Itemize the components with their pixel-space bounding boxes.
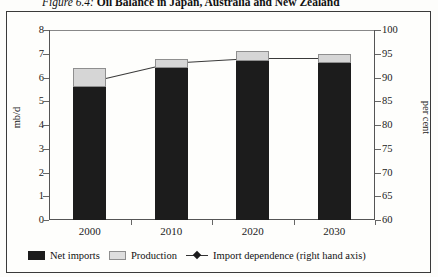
- legend-swatch-import-dependence: [186, 251, 208, 260]
- right-axis-tick-mark: [375, 101, 381, 102]
- legend-item-import-dependence: Import dependence (right hand axis): [186, 250, 366, 261]
- category-label-2010: 2010: [141, 225, 201, 237]
- right-axis-tick-75: 75: [382, 144, 408, 154]
- left-axis-tick-2: 2: [22, 168, 44, 178]
- left-axis-tick-1: 1: [22, 191, 44, 201]
- x-axis-tick-mark: [375, 220, 376, 225]
- right-axis-tick-65: 65: [382, 191, 408, 201]
- figure-title: Oil Balance in Japan, Australia and New …: [97, 0, 340, 8]
- left-axis-tick-mark: [43, 220, 49, 221]
- right-axis-tick-60: 60: [382, 215, 408, 225]
- left-axis-tick-mark: [43, 196, 49, 197]
- left-axis-tick-5: 5: [22, 96, 44, 106]
- bar-segment-net-imports-2030[interactable]: [318, 63, 351, 220]
- right-axis-tick-mark: [375, 54, 381, 55]
- bar-segment-production-2020[interactable]: [236, 51, 269, 61]
- bar-group-2000[interactable]: [73, 30, 106, 220]
- legend-label-import-dependence: Import dependence (right hand axis): [213, 250, 366, 261]
- left-axis-tick-4: 4: [22, 120, 44, 130]
- left-axis-tick-mark: [43, 173, 49, 174]
- legend-swatch-net-imports: [28, 251, 45, 260]
- legend-item-net-imports: Net imports: [28, 250, 100, 261]
- figure-caption: Figure 6.4: Oil Balance in Japan, Austra…: [42, 0, 432, 10]
- legend-label-net-imports: Net imports: [50, 250, 100, 261]
- bar-segment-net-imports-2000[interactable]: [73, 87, 106, 220]
- left-axis-tick-mark: [43, 149, 49, 150]
- legend-swatch-production: [109, 251, 126, 260]
- bar-group-2020[interactable]: [236, 30, 269, 220]
- bar-segment-production-2010[interactable]: [155, 59, 188, 69]
- left-axis-tick-mark: [43, 101, 49, 102]
- x-axis-tick-mark: [131, 220, 132, 225]
- right-axis-tick-100: 100: [382, 25, 408, 35]
- left-axis-tick-8: 8: [22, 25, 44, 35]
- right-axis-tick-mark: [375, 149, 381, 150]
- bar-segment-production-2000[interactable]: [73, 68, 106, 87]
- legend-label-production: Production: [131, 250, 177, 261]
- category-label-2030: 2030: [304, 225, 364, 237]
- right-axis-tick-mark: [375, 78, 381, 79]
- bar-group-2010[interactable]: [155, 30, 188, 220]
- bar-group-2030[interactable]: [318, 30, 351, 220]
- chart-legend: Net imports Production Import dependence…: [28, 250, 366, 261]
- left-axis-tick-0: 0: [22, 215, 44, 225]
- left-axis-title: mb/d: [11, 98, 22, 138]
- left-axis-tick-6: 6: [22, 73, 44, 83]
- left-axis-tick-mark: [43, 78, 49, 79]
- figure-container: Figure 6.4: Oil Balance in Japan, Austra…: [0, 0, 438, 277]
- x-axis-tick-mark: [294, 220, 295, 225]
- right-axis-tick-mark: [375, 125, 381, 126]
- left-axis-tick-3: 3: [22, 144, 44, 154]
- right-axis-tick-80: 80: [382, 120, 408, 130]
- right-axis-tick-90: 90: [382, 73, 408, 83]
- right-axis-tick-mark: [375, 173, 381, 174]
- right-axis-tick-70: 70: [382, 168, 408, 178]
- left-axis-tick-7: 7: [22, 49, 44, 59]
- figure-number: Figure 6.4:: [42, 0, 94, 8]
- legend-item-production: Production: [109, 250, 177, 261]
- bar-segment-production-2030[interactable]: [318, 54, 351, 64]
- x-axis-tick-mark: [212, 220, 213, 225]
- left-axis-tick-mark: [43, 30, 49, 31]
- category-label-2020: 2020: [223, 225, 283, 237]
- right-axis-tick-mark: [375, 196, 381, 197]
- right-axis-tick-85: 85: [382, 96, 408, 106]
- left-axis-tick-labels: 876543210: [20, 0, 44, 277]
- right-axis-tick-labels: 1009590858075706560: [382, 0, 412, 277]
- right-axis-tick-95: 95: [382, 49, 408, 59]
- right-axis-tick-mark: [375, 30, 381, 31]
- left-axis-tick-mark: [43, 125, 49, 126]
- legend-diamond-marker-icon: [193, 251, 201, 259]
- right-axis-title: per cent: [421, 94, 432, 142]
- category-label-2000: 2000: [60, 225, 120, 237]
- left-axis-tick-mark: [43, 54, 49, 55]
- bar-segment-net-imports-2010[interactable]: [155, 68, 188, 220]
- bar-segment-net-imports-2020[interactable]: [236, 61, 269, 220]
